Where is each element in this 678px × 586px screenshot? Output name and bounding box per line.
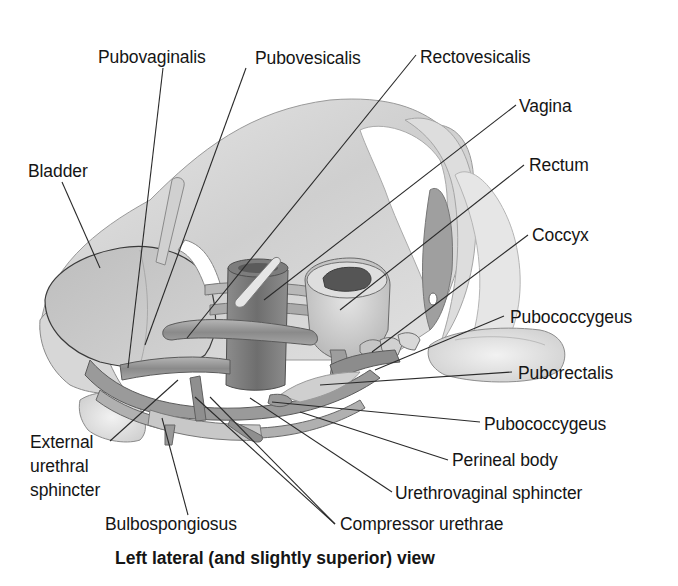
label-perineal-body: Perineal body xyxy=(452,450,558,470)
label-external-urethral-sphincter-line3: sphincter xyxy=(30,480,100,500)
label-external-urethral-sphincter-line2: urethral xyxy=(30,456,89,476)
label-urethrovaginal-sphincter: Urethrovaginal sphincter xyxy=(395,483,582,503)
label-rectovesicalis: Rectovesicalis xyxy=(420,47,530,67)
label-coccyx: Coccyx xyxy=(532,225,589,245)
figure-caption: Left lateral (and slightly superior) vie… xyxy=(115,548,435,569)
label-pubococcygeus-lower: Pubococcygeus xyxy=(484,414,606,434)
label-external-urethral-sphincter-line1: External xyxy=(30,432,93,452)
leader-perineal-body xyxy=(300,412,448,460)
label-bladder: Bladder xyxy=(28,161,88,181)
label-puborectalis: Puborectalis xyxy=(518,363,613,383)
label-bulbospongiosus: Bulbospongiosus xyxy=(105,514,237,534)
leader-urethrovaginal-sphincter xyxy=(250,398,392,492)
label-pubococcygeus-upper: Pubococcygeus xyxy=(510,307,632,327)
label-rectum: Rectum xyxy=(529,155,589,175)
label-pubovesicalis: Pubovesicalis xyxy=(255,48,361,68)
pelvic-floor-diagram: Pubovaginalis Pubovesicalis Rectovesical… xyxy=(0,0,678,586)
label-vagina: Vagina xyxy=(519,96,572,116)
label-pubovaginalis: Pubovaginalis xyxy=(98,47,206,67)
label-compressor-urethrae: Compressor urethrae xyxy=(340,514,503,534)
